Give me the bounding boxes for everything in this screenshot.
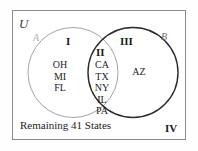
set-element: CA xyxy=(90,59,114,71)
region-numeral-iii: III xyxy=(120,36,133,47)
venn-diagram: U A B I II III IV OHMIFL CATXNYILPA AZ R… xyxy=(0,0,198,151)
set-element: FL xyxy=(45,82,75,94)
region-numeral-i: I xyxy=(66,36,70,47)
set-element: PA xyxy=(90,105,114,117)
region-iii-elements: AZ xyxy=(128,66,150,78)
set-element: TX xyxy=(90,71,114,83)
outside-region-note: Remaining 41 States xyxy=(20,120,111,131)
region-ii-elements: CATXNYILPA xyxy=(90,59,114,117)
region-numeral-ii: II xyxy=(96,47,105,58)
region-i-elements: OHMIFL xyxy=(45,59,75,94)
set-element: AZ xyxy=(128,66,150,78)
set-element: IL xyxy=(90,94,114,106)
set-b-label: B xyxy=(161,32,167,42)
set-a-label: A xyxy=(33,33,39,43)
set-element: NY xyxy=(90,82,114,94)
set-element: MI xyxy=(45,71,75,83)
universe-label: U xyxy=(19,17,28,30)
region-numeral-iv: IV xyxy=(165,123,177,134)
set-element: OH xyxy=(45,59,75,71)
